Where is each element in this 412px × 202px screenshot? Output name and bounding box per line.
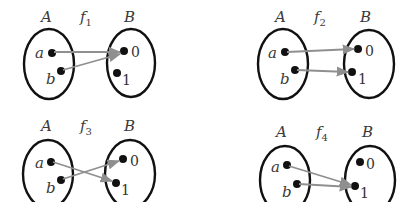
element-1-label: 1: [360, 185, 369, 201]
diagram-f1: A f1 B a b 0 1: [24, 8, 155, 99]
diagram-f4: A f4 B a b 0 1: [260, 123, 395, 202]
element-1-label: 1: [358, 71, 367, 87]
codomain-set-ellipse: [344, 30, 394, 98]
domain-set-ellipse: [258, 29, 308, 99]
domain-label: A: [39, 8, 52, 26]
arrow-b-to-1: [297, 70, 348, 72]
element-a-label: a: [271, 158, 280, 176]
function-label: f3: [79, 117, 92, 137]
element-a-dot: [48, 49, 56, 57]
function-label: f4: [315, 123, 328, 143]
element-0-label: 0: [366, 156, 375, 172]
element-1-dot: [113, 69, 121, 77]
arrow-b-to-1: [299, 184, 351, 187]
function-mapping-diagrams: A f1 B a b 0 1 A f2 B a b 0 1 A: [0, 0, 412, 202]
element-a-label: a: [268, 44, 277, 62]
element-1-dot: [351, 182, 359, 190]
function-label: f2: [313, 8, 326, 28]
element-a-label: a: [35, 154, 44, 172]
element-1-dot: [112, 179, 120, 187]
element-b-label: b: [46, 179, 56, 197]
element-b-label: b: [280, 70, 290, 88]
diagram-f3: A f3 B a b 0 1: [23, 117, 155, 202]
codomain-label: B: [359, 8, 371, 26]
codomain-set-ellipse: [105, 140, 155, 202]
codomain-set-ellipse: [107, 29, 155, 97]
element-0-dot: [119, 155, 127, 163]
domain-label: A: [273, 8, 286, 26]
element-b-label: b: [282, 183, 292, 201]
element-a-dot: [283, 161, 291, 169]
domain-set-ellipse: [24, 29, 74, 99]
domain-label: A: [39, 117, 52, 135]
element-0-label: 0: [131, 44, 140, 60]
element-1-dot: [348, 68, 356, 76]
element-1-label: 1: [121, 182, 130, 198]
diagram-f2: A f2 B a b 0 1: [258, 8, 394, 99]
element-b-dot: [57, 176, 65, 184]
element-0-label: 0: [365, 43, 374, 59]
codomain-label: B: [123, 117, 135, 135]
codomain-label: B: [123, 8, 135, 26]
element-0-dot: [354, 45, 362, 53]
element-b-dot: [57, 67, 65, 75]
domain-label: A: [274, 123, 287, 141]
element-a-label: a: [35, 44, 44, 62]
element-0-dot: [356, 158, 364, 166]
element-b-label: b: [46, 70, 56, 88]
element-0-label: 0: [130, 153, 139, 169]
function-label: f1: [79, 8, 92, 28]
codomain-set-ellipse: [345, 146, 395, 202]
codomain-label: B: [361, 123, 373, 141]
element-1-label: 1: [122, 72, 131, 88]
arrow-a-to-0: [287, 49, 354, 52]
arrow-b-to-0: [63, 54, 120, 70]
element-0-dot: [120, 47, 128, 55]
